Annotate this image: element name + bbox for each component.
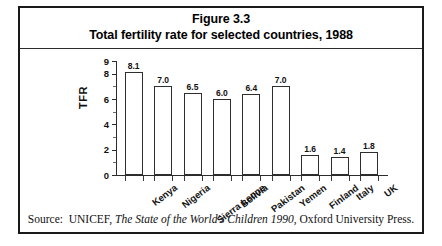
category-label-nigeria: Nigeria [180, 182, 212, 210]
bar-value-label: 1.6 [296, 144, 324, 154]
x-tick [260, 176, 261, 181]
y-tick-4 [112, 124, 116, 125]
bar-value-label: 7.0 [149, 75, 177, 85]
y-tick-label: 2 [93, 145, 109, 154]
figure-container: Figure 3.3 Total fertility rate for sele… [18, 6, 424, 234]
bar-value-label: 1.4 [326, 146, 354, 156]
x-tick [184, 176, 185, 181]
source-title: The State of the World's Children 1990 [115, 213, 294, 225]
y-axis-line [116, 61, 117, 175]
x-tick [143, 176, 144, 181]
x-tick [213, 176, 214, 181]
bar-kenya [125, 72, 143, 175]
category-label-uk: UK [382, 182, 400, 199]
y-tick-0 [112, 175, 116, 176]
x-tick [301, 176, 302, 181]
y-tick-minor [113, 86, 116, 87]
x-tick [349, 176, 350, 181]
x-tick [272, 176, 273, 181]
category-label-kenya: Kenya [149, 182, 178, 208]
bar-sierra-leone [184, 93, 202, 175]
y-tick-minor [113, 112, 116, 113]
x-tick [290, 176, 291, 181]
bar-bolivia [213, 99, 231, 175]
y-tick-label: 9 [93, 57, 109, 66]
source-note: Source: UNICEF, The State of the World's… [20, 213, 422, 225]
x-tick [331, 176, 332, 181]
source-suffix: , Oxford University Press. [294, 213, 414, 225]
bar-value-label: 6.5 [179, 82, 207, 92]
x-tick [202, 176, 203, 181]
x-tick [172, 176, 173, 181]
y-tick-label: 6 [93, 95, 109, 104]
x-axis-line [116, 175, 388, 176]
bar-pakistan [242, 94, 260, 175]
y-tick-8 [112, 74, 116, 75]
x-tick [319, 176, 320, 181]
y-tick-6 [112, 99, 116, 100]
bar-uk [360, 152, 378, 175]
bar-yemen [272, 86, 290, 175]
x-tick [125, 176, 126, 181]
x-tick [378, 176, 379, 181]
source-prefix: Source: UNICEF, [28, 213, 115, 225]
x-tick [231, 176, 232, 181]
figure-title: Total fertility rate for selected countr… [20, 28, 422, 44]
bar-value-label: 6.4 [237, 83, 265, 93]
y-tick-minor [113, 162, 116, 163]
figure-title-block: Figure 3.3 Total fertility rate for sele… [20, 8, 422, 49]
x-tick [242, 176, 243, 181]
y-tick-minor [113, 137, 116, 138]
y-tick-label: 4 [93, 120, 109, 129]
x-tick [360, 176, 361, 181]
bar-finland [301, 155, 319, 175]
bar-value-label: 8.1 [120, 61, 148, 71]
y-tick-label: 0 [93, 171, 109, 180]
y-axis-label: TFR [77, 86, 89, 109]
bar-value-label: 7.0 [267, 75, 295, 85]
y-tick-2 [112, 150, 116, 151]
chart-plot-area: TFR 024689 8.17.06.56.06.47.01.61.41.8 K… [20, 49, 422, 213]
y-tick-label: 8 [93, 69, 109, 78]
y-tick-9 [112, 61, 116, 62]
figure-number: Figure 3.3 [20, 12, 422, 28]
x-tick [154, 176, 155, 181]
bar-value-label: 6.0 [208, 88, 236, 98]
bar-value-label: 1.8 [355, 141, 383, 151]
bar-italy [331, 157, 349, 175]
bar-nigeria [154, 86, 172, 175]
